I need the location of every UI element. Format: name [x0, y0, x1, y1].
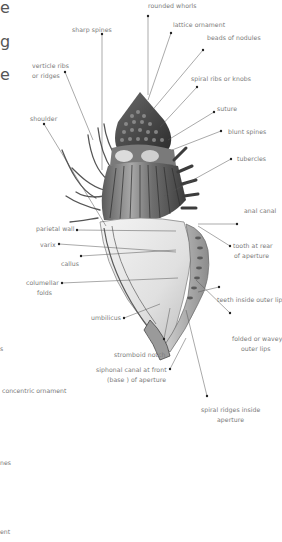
label-anal-canal: anal canal: [244, 206, 276, 216]
label-lattice-ornament: lattice ornament: [173, 20, 225, 30]
label-suture: suture: [217, 104, 237, 114]
label-stromboid-notch: stromboid notch: [114, 350, 165, 360]
label-parietal-wall: parietal wall: [36, 224, 75, 234]
edge-fragment-4: s: [0, 345, 3, 352]
edge-fragment-7: ent: [0, 528, 10, 535]
label-siphonal-canal: siphonal canal at front: [96, 365, 167, 375]
label-spiral-ribs: spiral ribs or knobs: [191, 74, 251, 84]
label-sharp-spines: sharp spines: [72, 25, 112, 35]
label-callus: callus: [61, 259, 79, 269]
label-columellar-folds: columellar: [26, 278, 59, 288]
label-beads-of-nodules: beads of nodules: [207, 33, 261, 43]
label-concentric-ornament: concentric ornament: [2, 387, 66, 394]
label-tooth-at-rear-line2: of aperture: [234, 251, 269, 261]
label-teeth-inside-outer-lip: teeth inside outer lip: [217, 295, 282, 305]
label-umbilicus: umbilicus: [91, 313, 121, 323]
label-verticle-ribs: verticle ribs: [32, 61, 69, 71]
label-rounded-whorls: rounded whorls: [148, 1, 197, 11]
label-tooth-at-rear: tooth at rear: [233, 241, 273, 251]
label-tubercles: tubercles: [237, 154, 266, 164]
label-shoulder: shoulder: [30, 114, 57, 124]
label-folded-outer-lips: folded or wavey: [232, 334, 282, 344]
label-verticle-ribs-line2: or ridges: [32, 71, 60, 81]
label-blunt-spines: blunt spines: [228, 127, 266, 137]
edge-fragment-1: e: [0, 0, 10, 17]
label-varix: varix: [40, 240, 56, 250]
label-spiral-ridges-inside-line2: aperture: [217, 415, 244, 425]
edge-fragment-2: g: [0, 32, 10, 51]
edge-fragment-3: e: [0, 65, 10, 84]
label-spiral-ridges-inside: spiral ridges inside: [201, 405, 260, 415]
label-siphonal-canal-line2: (base ) of aperture: [107, 375, 166, 385]
label-folded-outer-lips-line2: outer lips: [241, 344, 271, 354]
label-columellar-folds-line2: folds: [37, 288, 52, 298]
edge-fragment-6: nes: [0, 459, 11, 466]
